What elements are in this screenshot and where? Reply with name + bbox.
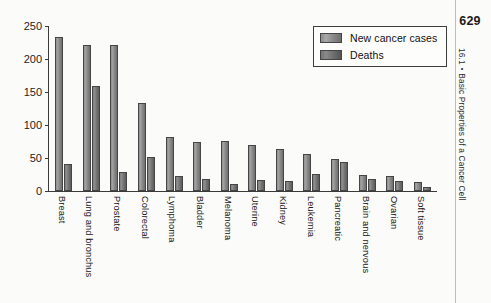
x-axis-category: Uterine <box>242 196 270 300</box>
x-axis-category: Lymphoma <box>160 196 188 300</box>
x-axis-category-label: Kidney <box>278 196 288 225</box>
bar-group <box>188 26 216 191</box>
bar-deaths <box>395 181 403 191</box>
y-axis-tick-label: 250 <box>24 18 42 34</box>
bar-deaths <box>147 157 155 191</box>
legend-item-new-cancer-cases: New cancer cases <box>320 32 437 44</box>
x-axis-category-label: Colorectal <box>140 196 150 239</box>
running-head: 16.1•Basic Properties of a Cancer Cell <box>457 48 467 198</box>
legend-label-deaths: Deaths <box>350 49 384 61</box>
bar-new-cancer-cases <box>359 175 367 191</box>
bar-group <box>271 26 299 191</box>
bar-group <box>50 26 78 191</box>
bar-new-cancer-cases <box>414 182 422 191</box>
x-axis-category: Pancreatic <box>325 196 353 300</box>
bar-deaths <box>230 184 238 191</box>
y-axis-tick-label: 100 <box>24 117 42 133</box>
bar-group <box>160 26 188 191</box>
bar-deaths <box>202 179 210 191</box>
y-axis-tick-label: 150 <box>24 84 42 100</box>
y-axis-tick-label: 200 <box>24 51 42 67</box>
x-axis-category: Lung and bronchus <box>77 196 105 300</box>
bar-deaths <box>312 174 320 191</box>
x-axis-category-label: Ovarian <box>389 196 399 229</box>
legend-swatch-icon-new-cancer-cases <box>320 33 342 43</box>
bar-deaths <box>285 181 293 191</box>
x-axis-category: Breast <box>49 196 77 300</box>
bar-new-cancer-cases <box>303 154 311 191</box>
x-axis-category: Kidney <box>270 196 298 300</box>
x-axis-category: Prostate <box>104 196 132 300</box>
x-axis-category-label: Uterine <box>250 196 260 227</box>
bar-deaths <box>423 187 431 191</box>
bar-new-cancer-cases <box>386 176 394 191</box>
bar-deaths <box>368 179 376 191</box>
y-axis-tick-label: 50 <box>30 150 42 166</box>
x-axis-category-label: Brain and nervous <box>361 196 371 273</box>
bar-new-cancer-cases <box>276 149 284 191</box>
y-axis-tick-label: 0 <box>36 183 42 199</box>
x-axis-category-label: Lung and bronchus <box>84 196 94 277</box>
x-axis-category: Soft tissue <box>408 196 436 300</box>
page-number: 629 <box>453 14 487 28</box>
legend-swatch-icon-deaths <box>320 50 342 60</box>
page-divider-rule <box>455 0 456 303</box>
bar-deaths <box>64 164 72 191</box>
x-axis-category: Ovarian <box>381 196 409 300</box>
bar-new-cancer-cases <box>331 159 339 191</box>
x-axis-category-label: Leukemia <box>306 196 316 237</box>
bar-new-cancer-cases <box>83 45 91 191</box>
bar-group <box>133 26 161 191</box>
x-axis-category: Leukemia <box>298 196 326 300</box>
bar-chart: 050100150200250 BreastLung and bronchusP… <box>0 0 455 303</box>
chart-legend: New cancer cases Deaths <box>313 26 447 67</box>
legend-item-deaths: Deaths <box>320 49 437 61</box>
x-axis-category-label: Pancreatic <box>333 196 343 241</box>
bar-deaths <box>119 172 127 191</box>
bar-new-cancer-cases <box>166 137 174 191</box>
bar-deaths <box>175 176 183 191</box>
bar-new-cancer-cases <box>193 142 201 192</box>
bar-group <box>105 26 133 191</box>
x-axis-category-label: Breast <box>57 196 67 223</box>
x-axis-category-label: Bladder <box>195 196 205 229</box>
bar-group <box>78 26 106 191</box>
x-axis-category: Melanoma <box>215 196 243 300</box>
bar-new-cancer-cases <box>55 37 63 191</box>
running-head-section: 16.1 <box>457 48 467 65</box>
bar-new-cancer-cases <box>221 141 229 191</box>
bar-deaths <box>257 180 265 191</box>
x-axis-category-label: Lymphoma <box>167 196 177 242</box>
bar-group <box>243 26 271 191</box>
x-axis-category-label: Soft tissue <box>416 196 426 241</box>
bar-deaths <box>340 162 348 191</box>
x-axis-category-label: Melanoma <box>223 196 233 240</box>
bar-group <box>215 26 243 191</box>
bar-new-cancer-cases <box>138 103 146 191</box>
x-axis-category-label: Prostate <box>112 196 122 231</box>
bar-new-cancer-cases <box>248 145 256 191</box>
x-axis-category: Brain and nervous <box>353 196 381 300</box>
legend-label-new-cancer-cases: New cancer cases <box>350 32 437 44</box>
running-head-title: Basic Properties of a Cancer Cell <box>457 73 467 200</box>
x-axis-category: Colorectal <box>132 196 160 300</box>
x-axis-category: Bladder <box>187 196 215 300</box>
bar-deaths <box>92 86 100 191</box>
x-axis-category-labels: BreastLung and bronchusProstateColorecta… <box>48 196 437 300</box>
bar-new-cancer-cases <box>110 45 118 191</box>
